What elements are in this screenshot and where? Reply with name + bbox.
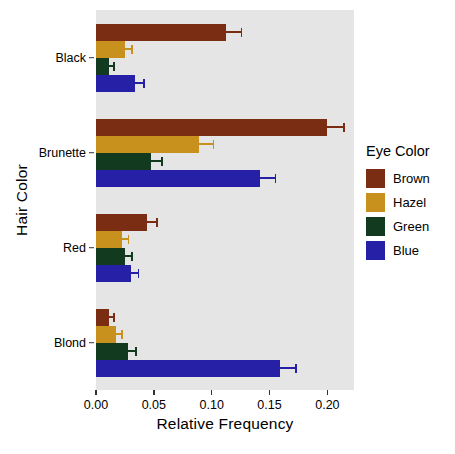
bar <box>96 170 260 187</box>
x-tick-label: 0.15 <box>257 398 281 412</box>
x-tick-mark <box>95 390 97 395</box>
error-bar-cap <box>156 218 158 227</box>
error-bar-cap <box>275 174 277 183</box>
legend: Eye Color BrownHazelGreenBlue <box>366 143 430 262</box>
legend-label: Hazel <box>393 195 426 210</box>
legend-key <box>366 193 385 212</box>
legend-label: Green <box>393 219 429 234</box>
bar <box>96 24 226 41</box>
x-axis-title-text: Relative Frequency <box>156 415 293 432</box>
legend-title: Eye Color <box>366 143 430 159</box>
error-bar-line <box>327 126 344 128</box>
error-bar-cap <box>131 45 133 54</box>
bar <box>96 343 128 360</box>
x-tick-mark <box>327 390 329 395</box>
legend-item: Brown <box>366 166 430 190</box>
x-tick-label: 0.00 <box>84 398 108 412</box>
error-bar-cap <box>161 157 163 166</box>
error-bar-cap <box>143 79 145 88</box>
error-bar-cap <box>113 62 115 71</box>
bar <box>96 231 122 248</box>
error-bar-cap <box>138 269 140 278</box>
legend-swatch-green <box>366 217 385 236</box>
x-axis-title: Relative Frequency <box>96 415 354 433</box>
legend-key <box>366 241 385 260</box>
error-bar-cap <box>128 235 130 244</box>
y-tick-mark <box>89 57 94 59</box>
y-tick-label: Black <box>0 51 86 65</box>
legend-item: Green <box>366 214 430 238</box>
bar <box>96 265 131 282</box>
error-bar-cap <box>131 252 133 261</box>
x-tick-mark <box>211 390 213 395</box>
plot-panel <box>96 10 354 390</box>
error-bar-cap <box>113 313 115 322</box>
y-tick-label: Red <box>0 241 86 255</box>
error-bar-cap <box>343 123 345 132</box>
bar <box>96 136 199 153</box>
legend-item: Blue <box>366 238 430 262</box>
y-tick-mark <box>89 152 94 154</box>
y-tick-label: Blond <box>0 336 86 350</box>
error-bar-cap <box>121 330 123 339</box>
legend-swatch-blue <box>366 241 385 260</box>
bar <box>96 326 116 343</box>
error-bar-cap <box>295 364 297 373</box>
bar <box>96 75 135 92</box>
legend-label: Blue <box>393 243 419 258</box>
x-tick-label: 0.05 <box>142 398 166 412</box>
y-tick-mark <box>89 247 94 249</box>
error-bar-cap <box>241 28 243 37</box>
bar <box>96 153 151 170</box>
bar <box>96 58 109 75</box>
bar <box>96 248 125 265</box>
legend-swatch-brown <box>366 169 385 188</box>
x-tick-mark <box>269 390 271 395</box>
bar <box>96 41 125 58</box>
legend-swatch-hazel <box>366 193 385 212</box>
x-tick-label: 0.10 <box>200 398 224 412</box>
bar <box>96 119 327 136</box>
bar <box>96 214 147 231</box>
error-bar-cap <box>213 140 215 149</box>
legend-key <box>366 217 385 236</box>
x-tick-mark <box>153 390 155 395</box>
x-tick-label: 0.20 <box>315 398 339 412</box>
y-axis-title-text: Hair Color <box>13 164 31 236</box>
error-bar-cap <box>135 347 137 356</box>
bar <box>96 309 109 326</box>
bar <box>96 360 280 377</box>
legend-item: Hazel <box>366 190 430 214</box>
legend-key <box>366 169 385 188</box>
y-tick-mark <box>89 342 94 344</box>
bar-chart: Hair Color Relative Frequency BlackBrune… <box>0 0 455 454</box>
legend-label: Brown <box>393 171 430 186</box>
legend-rows: BrownHazelGreenBlue <box>366 166 430 262</box>
y-tick-label: Brunette <box>0 146 86 160</box>
